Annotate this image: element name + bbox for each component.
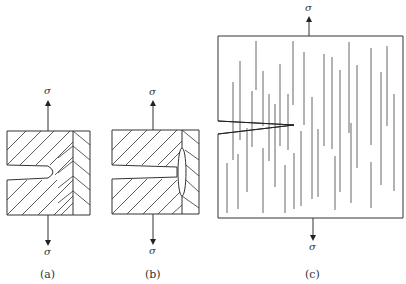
stress-label-c-top: σ: [305, 2, 312, 13]
caption-c: (c): [305, 268, 320, 281]
stress-label-c-bottom: σ: [309, 241, 316, 252]
caption-b: (b): [145, 268, 161, 281]
stress-label-a-top: σ: [44, 85, 51, 96]
caption-a: (a): [40, 268, 55, 281]
stress-label-b-bottom: σ: [149, 245, 156, 256]
stress-label-b-top: σ: [149, 86, 156, 97]
stress-label-a-bottom: σ: [44, 246, 51, 257]
panel-b: [112, 103, 199, 242]
figure-canvas: [0, 0, 406, 284]
panel-c: [218, 19, 403, 238]
panel-a: [7, 103, 90, 243]
